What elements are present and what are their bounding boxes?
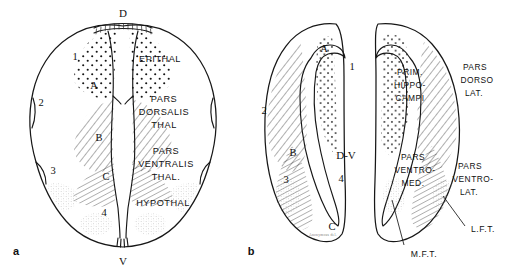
svg-text:MED.: MED. xyxy=(402,178,425,188)
panel-b-marker-A: A xyxy=(320,43,328,54)
panel-a-marker-1: 1 xyxy=(72,51,77,62)
panel-a-ventral-marker: V xyxy=(119,255,127,267)
panel-b-label-pars-ventro-lat: PARS VENTRO- LAT. xyxy=(452,161,493,197)
svg-text:HIPPO-: HIPPO- xyxy=(394,80,426,90)
panel-b: A 1 2 D-V B 3 4 C PRIM. HIPPO- CAMPI PAR… xyxy=(248,24,495,260)
svg-text:LAT.: LAT. xyxy=(465,88,483,98)
svg-text:PARS: PARS xyxy=(458,161,482,171)
panel-b-caption-label: b xyxy=(248,245,255,257)
panel-b-marker-2: 2 xyxy=(261,105,266,116)
panel-b-marker-1: 1 xyxy=(349,61,354,72)
svg-text:THAL: THAL xyxy=(151,120,177,130)
panel-a-marker-A: A xyxy=(90,80,98,91)
svg-text:LAT.: LAT. xyxy=(460,187,478,197)
panel-b-marker-3: 3 xyxy=(283,174,288,185)
panel-a-marker-B: B xyxy=(95,132,102,143)
panel-a-marker-3: 3 xyxy=(50,165,55,176)
panel-a-caption-label: a xyxy=(13,245,20,257)
svg-text:PARS: PARS xyxy=(151,94,177,104)
panel-a: D V 1 2 3 4 A B C EPITHAL PARS DORSALIS … xyxy=(13,7,216,267)
anatomy-figure: D V 1 2 3 4 A B C EPITHAL PARS DORSALIS … xyxy=(0,0,512,272)
panel-b-label-lft: L.F.T. xyxy=(471,224,495,234)
svg-text:PARS: PARS xyxy=(401,152,425,162)
panel-b-label-pars-dorso-lat: PARS DORSO LAT. xyxy=(460,62,493,98)
panel-a-label-epithalamus: EPITHAL xyxy=(139,54,181,64)
panel-b-lft-leader-line xyxy=(443,196,465,226)
svg-text:VENTRO-: VENTRO- xyxy=(452,174,493,184)
panel-b-label-primordium-hippocampi: PRIM. HIPPO- CAMPI xyxy=(394,67,426,103)
svg-text:VENTRALIS: VENTRALIS xyxy=(138,159,194,169)
svg-text:PRIM.: PRIM. xyxy=(397,67,423,77)
svg-text:CAMPI: CAMPI xyxy=(395,93,424,103)
panel-b-marker-C: C xyxy=(328,221,335,232)
panel-b-pars-dorsolateral-left-hatch xyxy=(267,42,307,172)
panel-a-marker-4: 4 xyxy=(101,207,107,218)
svg-text:PARS: PARS xyxy=(463,62,487,72)
svg-text:THAL.: THAL. xyxy=(152,172,181,182)
panel-a-marker-C: C xyxy=(102,171,109,182)
svg-text:VENTRO-: VENTRO- xyxy=(394,165,435,175)
figure-root: D V 1 2 3 4 A B C EPITHAL PARS DORSALIS … xyxy=(0,0,512,272)
panel-b-artist-signature: Anonymous del. xyxy=(309,233,337,237)
panel-b-marker-B: B xyxy=(289,147,296,158)
svg-text:PARS: PARS xyxy=(153,146,179,156)
panel-a-section-outline xyxy=(30,25,216,247)
panel-a-marker-2: 2 xyxy=(38,97,43,108)
panel-b-marker-dv: D-V xyxy=(336,149,356,161)
svg-text:DORSALIS: DORSALIS xyxy=(139,107,189,117)
svg-text:DORSO: DORSO xyxy=(460,75,493,85)
panel-b-label-mft: M.F.T. xyxy=(411,249,438,259)
panel-a-label-hypothalamus: HYPOTHAL xyxy=(136,198,190,208)
panel-a-dorsal-marker: D xyxy=(119,7,127,19)
panel-b-marker-4: 4 xyxy=(338,173,344,184)
